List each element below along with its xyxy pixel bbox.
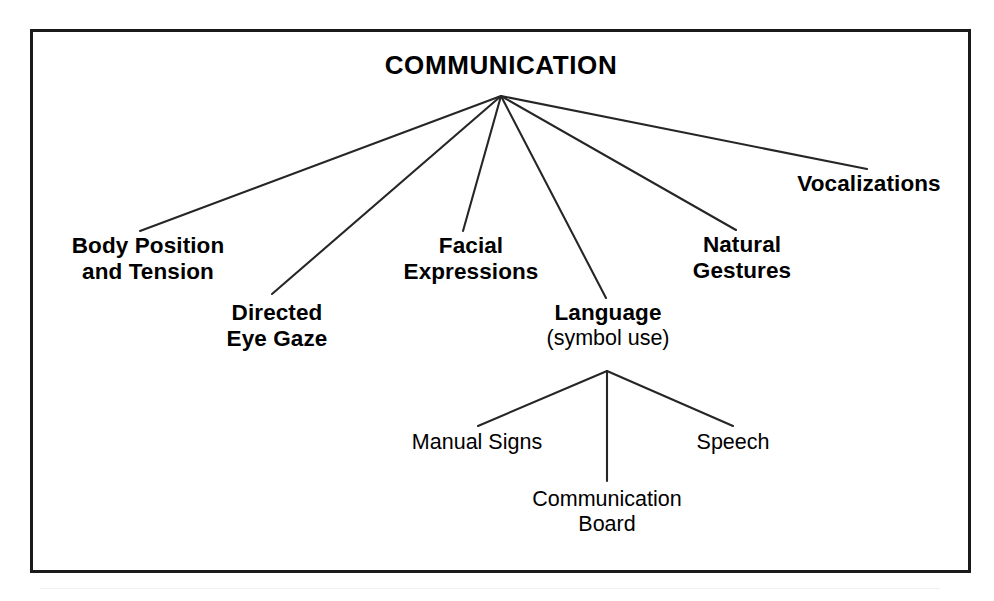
node-label-communication-board-line1: Communication [532, 487, 681, 512]
node-communication-root: COMMUNICATION [385, 50, 618, 80]
node-label-facial-expressions-line1: Facial [404, 233, 539, 259]
node-label-communication: COMMUNICATION [385, 50, 618, 80]
node-label-vocalizations: Vocalizations [797, 171, 940, 197]
node-language: Language (symbol use) [546, 300, 669, 351]
node-label-body-position-line2: and Tension [72, 259, 225, 285]
scan-artifact-line [40, 588, 940, 589]
node-label-directed-eye-gaze-line2: Eye Gaze [227, 326, 328, 352]
node-natural-gestures: Natural Gestures [693, 232, 791, 284]
diagram-canvas: COMMUNICATION Body Position and Tension … [0, 0, 994, 601]
node-label-language-sublabel: (symbol use) [546, 326, 669, 351]
node-label-body-position-line1: Body Position [72, 233, 225, 259]
node-manual-signs: Manual Signs [412, 430, 542, 455]
node-speech: Speech [697, 430, 770, 455]
node-vocalizations: Vocalizations [797, 171, 940, 197]
node-body-position-and-tension: Body Position and Tension [72, 233, 225, 285]
node-label-communication-board-line2: Board [532, 512, 681, 537]
node-label-directed-eye-gaze-line1: Directed [227, 300, 328, 326]
node-label-natural-gestures-line2: Gestures [693, 258, 791, 284]
node-label-language: Language [546, 300, 669, 326]
node-communication-board: Communication Board [532, 487, 681, 537]
node-label-speech: Speech [697, 430, 770, 455]
node-label-natural-gestures-line1: Natural [693, 232, 791, 258]
node-label-facial-expressions-line2: Expressions [404, 259, 539, 285]
node-directed-eye-gaze: Directed Eye Gaze [227, 300, 328, 352]
node-label-manual-signs: Manual Signs [412, 430, 542, 455]
node-facial-expressions: Facial Expressions [404, 233, 539, 285]
diagram-frame-border [30, 29, 971, 573]
